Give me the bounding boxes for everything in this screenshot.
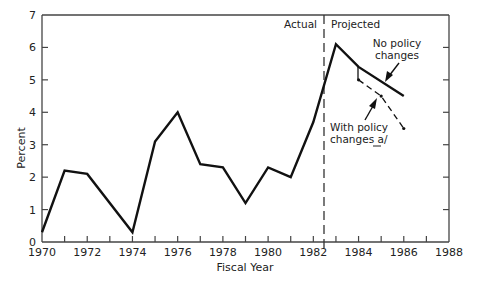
x-axis-ticks <box>65 236 427 242</box>
no-policy-arrow-icon <box>385 63 399 82</box>
y-tick-label: 1 <box>29 204 36 217</box>
y-tick-label: 3 <box>29 139 36 152</box>
actual-label: Actual <box>284 18 317 30</box>
y-tick-label: 0 <box>29 236 36 249</box>
x-tick-label: 1978 <box>209 246 237 259</box>
y-axis-tick-labels: 01234567 <box>29 9 36 249</box>
x-tick-label: 1972 <box>73 246 101 259</box>
no-policy-annotation-line1: No policy <box>373 37 422 49</box>
x-tick-label: 1988 <box>435 246 463 259</box>
x-tick-label: 1986 <box>390 246 418 259</box>
y-tick-label: 2 <box>29 171 36 184</box>
y-tick-label: 5 <box>29 74 36 87</box>
x-axis-title: Fiscal Year <box>217 261 274 274</box>
x-tick-label: 1974 <box>118 246 146 259</box>
y-tick-label: 7 <box>29 9 36 22</box>
projected-label: Projected <box>331 18 380 30</box>
data-point <box>380 94 383 97</box>
x-tick-label: 1976 <box>164 246 192 259</box>
y-tick-label: 6 <box>29 41 36 54</box>
line-chart: 1970197219741976197819801982198419861988… <box>0 0 480 283</box>
with-policy-annotation-line1: With policy <box>330 121 388 133</box>
with-policy-arrow-icon <box>365 98 377 120</box>
x-axis-tick-labels: 1970197219741976197819801982198419861988 <box>28 246 463 259</box>
with-policy-annotation-line2: changes a/ <box>330 133 388 145</box>
data-point <box>402 127 405 130</box>
x-tick-label: 1984 <box>345 246 373 259</box>
x-tick-label: 1982 <box>299 246 327 259</box>
x-tick-label: 1980 <box>254 246 282 259</box>
no-policy-annotation-line2: changes <box>375 49 419 61</box>
data-point <box>357 78 360 81</box>
y-axis-title: Percent <box>15 127 28 169</box>
y-tick-label: 4 <box>29 106 36 119</box>
